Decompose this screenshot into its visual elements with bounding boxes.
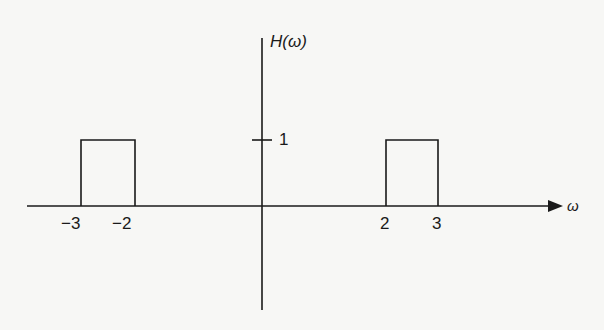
passband-positive bbox=[386, 140, 438, 206]
x-tick-label-neg3: −3 bbox=[61, 214, 80, 234]
x-axis-arrow-icon bbox=[548, 200, 563, 212]
x-axis-label: ω bbox=[567, 197, 579, 214]
passband-negative bbox=[81, 140, 135, 206]
x-tick-label-pos3: 3 bbox=[432, 214, 441, 234]
x-tick-label-neg2: −2 bbox=[112, 214, 131, 234]
y-axis-label: H(ω) bbox=[270, 32, 307, 52]
y-tick-label-1: 1 bbox=[279, 130, 288, 150]
x-tick-label-pos2: 2 bbox=[380, 214, 389, 234]
